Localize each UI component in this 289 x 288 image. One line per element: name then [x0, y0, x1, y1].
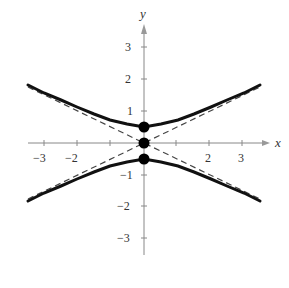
- y-tick-label: −3: [117, 231, 130, 245]
- x-tick-label: 2: [205, 151, 211, 165]
- vertex-point-top: [139, 122, 150, 133]
- points: [139, 122, 150, 165]
- y-axis-arrow-icon: [141, 24, 147, 34]
- center-point: [139, 138, 150, 149]
- hyperbola-chart: x y −3 −2 2 3 3 2 1 −1 −2 −3: [0, 0, 289, 288]
- vertex-point-bottom: [139, 154, 150, 165]
- y-tick-label: 2: [125, 72, 131, 86]
- x-axis-arrow-icon: [262, 140, 270, 146]
- y-tick-label: −1: [120, 168, 133, 182]
- y-tick-label: 1: [127, 104, 133, 118]
- x-tick-label: −3: [33, 151, 46, 165]
- y-tick-label: 3: [125, 40, 131, 54]
- y-axis-label: y: [138, 6, 146, 21]
- x-axis-label: x: [274, 135, 281, 150]
- x-tick-label: 3: [238, 151, 244, 165]
- x-tick-label: −2: [65, 151, 78, 165]
- y-tick-label: −2: [117, 199, 130, 213]
